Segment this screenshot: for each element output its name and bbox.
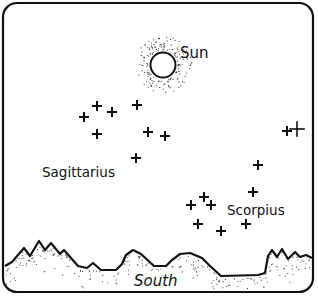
star-icon bbox=[108, 108, 116, 116]
scorpius-label: Scorpius bbox=[227, 202, 285, 218]
star-icon bbox=[217, 227, 225, 235]
star-icon bbox=[249, 188, 257, 196]
star-icon bbox=[132, 154, 140, 162]
star-icon bbox=[80, 113, 88, 121]
sagittarius-label: Sagittarius bbox=[42, 164, 115, 180]
star-icon bbox=[290, 122, 304, 136]
star-icon bbox=[187, 201, 195, 209]
sky-diagram: Sun Sagittarius Scorpius South bbox=[0, 0, 318, 296]
star-icon bbox=[144, 128, 152, 136]
frame-border bbox=[3, 3, 313, 292]
sun-label: Sun bbox=[180, 44, 209, 62]
star-icon bbox=[161, 132, 169, 140]
star-icon bbox=[133, 101, 141, 109]
star-icon bbox=[200, 193, 208, 201]
star-icon bbox=[93, 130, 101, 138]
south-label: South bbox=[134, 272, 178, 290]
sun-icon bbox=[151, 53, 176, 78]
diagram-canvas: Sun Sagittarius Scorpius South bbox=[0, 0, 318, 296]
star-icon bbox=[242, 220, 250, 228]
star-icon bbox=[254, 161, 262, 169]
star-icon bbox=[194, 220, 202, 228]
star-icon bbox=[93, 102, 101, 110]
star-icon bbox=[207, 201, 215, 209]
